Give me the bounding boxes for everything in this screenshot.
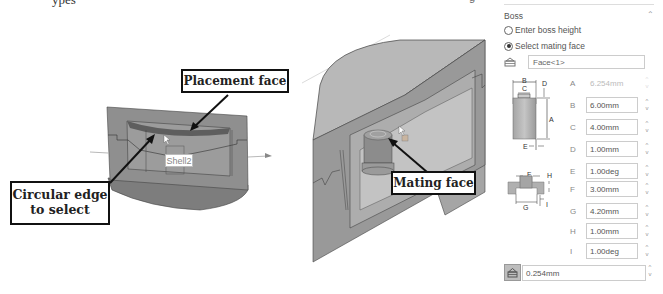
svg-text:C: C — [522, 85, 527, 92]
param-a-label: A — [570, 79, 580, 88]
svg-text:I: I — [546, 201, 548, 208]
clearance-icon[interactable] — [504, 264, 521, 281]
boss-group-title: Boss — [504, 11, 523, 21]
param-i-label: I — [570, 247, 580, 256]
clearance-spinner[interactable]: ^v — [647, 264, 653, 278]
param-i-spinner[interactable]: ^v — [644, 244, 650, 258]
param-i-input[interactable]: 1.00deg — [586, 243, 638, 259]
param-c-label: C — [570, 123, 580, 132]
callout-line-1: Circular edge — [12, 187, 108, 202]
property-manager-panel: Boss ⌃ Enter boss height Select mating f… — [490, 0, 663, 294]
enter-boss-height-radio[interactable]: Enter boss height — [504, 25, 581, 35]
param-g-row: G 4.20mm ^v — [570, 203, 650, 219]
param-h-input[interactable]: 1.00mm — [586, 223, 638, 239]
svg-text:D: D — [542, 80, 547, 87]
param-h-row: H 1.00mm ^v — [570, 223, 650, 239]
select-mating-face-radio[interactable]: Select mating face — [504, 41, 585, 51]
clearance-input[interactable]: 0.254mm — [522, 265, 646, 281]
param-g-spinner[interactable]: ^v — [644, 204, 650, 218]
placement-face-callout: Placement face — [181, 69, 289, 93]
param-d-row: D 1.00mm ^v — [570, 141, 650, 157]
param-b-spinner[interactable]: ^v — [644, 98, 650, 112]
param-c-row: C 4.00mm ^v — [570, 119, 650, 135]
param-i-row: I 1.00deg ^v — [570, 243, 650, 259]
param-g-label: G — [570, 207, 580, 216]
param-b-input[interactable]: 6.00mm — [586, 97, 638, 113]
param-a-row: A 6.254mm ^v — [570, 75, 650, 91]
param-g-input[interactable]: 4.20mm — [586, 203, 638, 219]
right-part-model[interactable] — [300, 0, 490, 294]
param-a-spinner: ^v — [644, 76, 650, 90]
param-e-spinner[interactable]: ^v — [644, 164, 650, 178]
param-d-spinner[interactable]: ^v — [644, 142, 650, 156]
param-e-input[interactable]: 1.00deg — [586, 163, 638, 179]
radio-label: Enter boss height — [515, 25, 581, 35]
param-b-label: B — [570, 101, 580, 110]
svg-text:G: G — [523, 204, 528, 211]
param-c-input[interactable]: 4.00mm — [586, 119, 638, 135]
callout-line-2: to select — [12, 202, 108, 217]
param-f-input[interactable]: 3.00mm — [586, 181, 638, 197]
param-f-label: F — [570, 185, 580, 194]
panel-divider — [504, 4, 654, 5]
param-h-spinner[interactable]: ^v — [644, 224, 650, 238]
mating-face-selection-box[interactable]: Face<1> — [528, 55, 645, 69]
param-d-label: D — [570, 145, 580, 154]
mating-face-callout: Mating face — [391, 171, 476, 195]
svg-text:H: H — [547, 172, 552, 179]
param-a-input: 6.254mm — [586, 75, 638, 91]
param-d-input[interactable]: 1.00mm — [586, 141, 638, 157]
param-f-row: F 3.00mm ^v — [570, 181, 650, 197]
param-f-spinner[interactable]: ^v — [644, 182, 650, 196]
svg-text:A: A — [549, 116, 554, 123]
chevron-up-icon[interactable]: ⌃ — [647, 10, 654, 19]
radio-icon[interactable] — [504, 26, 513, 35]
radio-label: Select mating face — [515, 41, 585, 51]
mating-dimension-diagram: F H G I — [504, 170, 560, 212]
feature-tooltip: Shell2 — [165, 154, 193, 167]
radio-checked-icon[interactable] — [504, 42, 513, 51]
param-c-spinner[interactable]: ^v — [644, 120, 650, 134]
face-select-icon[interactable] — [504, 57, 516, 67]
param-e-label: E — [570, 167, 580, 176]
circular-edge-callout: Circular edge to select — [10, 181, 110, 225]
param-h-label: H — [570, 227, 580, 236]
param-b-row: B 6.00mm ^v — [570, 97, 650, 113]
svg-text:E: E — [523, 143, 528, 150]
boss-dimension-diagram: B C D A E — [504, 77, 560, 151]
graphics-area[interactable]: ypes g Placement face Circular edge to s… — [0, 0, 490, 294]
param-e-row: E 1.00deg ^v — [570, 163, 650, 179]
svg-text:B: B — [522, 77, 527, 84]
left-part-model[interactable] — [0, 0, 300, 294]
